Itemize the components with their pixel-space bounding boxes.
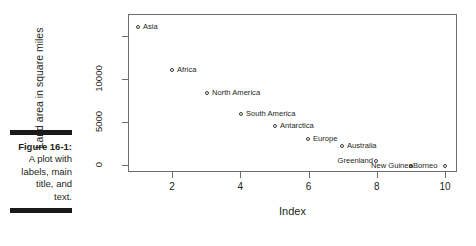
x-tick-2 [172,172,173,178]
x-tick-label-8: 8 [374,181,380,192]
y-tick-label-text: 0 [93,145,104,185]
data-point-south-america [239,112,243,116]
scatter-plot: Land area in square miles 0500010000 Asi… [0,0,476,246]
plot-frame [128,14,457,172]
y-tick-label-text: 5000 [93,102,104,142]
data-point-europe [306,137,310,141]
x-tick-6 [309,172,310,178]
x-tick-label-4: 4 [238,181,244,192]
x-tick-10 [445,172,446,178]
data-point-label-europe: Europe [313,135,338,143]
data-point-label-north-america: North America [212,89,260,97]
x-tick-8 [377,172,378,178]
x-tick-label-6: 6 [306,181,312,192]
x-tick-4 [240,172,241,178]
y-tick-label-text: 10000 [93,59,104,99]
data-point-label-borneo: Borneo [413,162,438,170]
data-point-north-america [205,91,209,95]
data-point-australia [340,144,344,148]
y-tick-label-0: 0 [78,159,118,171]
x-tick-label-2: 2 [169,181,175,192]
data-point-label-south-america: South America [246,110,295,118]
y-tick-label-5000: 5000 [78,116,118,128]
data-point-label-new-guinea: New Guinea [371,162,413,170]
data-point-borneo [443,164,447,168]
data-point-africa [170,68,174,72]
data-point-label-antarctica: Antarctica [280,122,314,130]
y-tick-label-10000: 10000 [78,73,118,85]
data-point-label-asia: Asia [143,23,158,31]
data-point-label-africa: Africa [177,66,196,74]
data-point-label-greenland: Greenland [338,157,373,165]
x-tick-label-10: 10 [439,181,450,192]
data-point-antarctica [273,124,277,128]
y-axis-title: Land area in square miles [33,8,45,168]
x-axis-title: Index [128,205,457,217]
figure-page: Figure 16-1: A plot with labels, main ti… [0,0,476,246]
data-point-asia [136,25,140,29]
data-point-label-australia: Australia [347,142,377,150]
